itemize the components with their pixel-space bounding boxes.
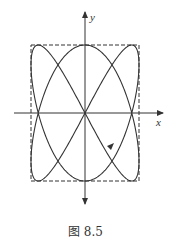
figure-caption: 图 8.5	[0, 222, 171, 239]
x-axis-label: x	[155, 116, 161, 128]
lissajous-diagram: y x	[0, 0, 171, 246]
y-axis-label: y	[89, 11, 95, 23]
direction-arrow-icon	[107, 143, 114, 150]
